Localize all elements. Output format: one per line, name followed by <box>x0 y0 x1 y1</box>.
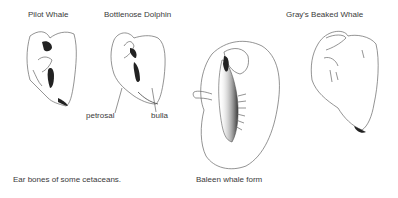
label-baleen-whale: Baleen whale form <box>196 175 262 184</box>
label-bottlenose-dolphin: Bottlenose Dolphin <box>104 10 171 19</box>
label-bulla: bulla <box>151 111 168 120</box>
label-grays-beaked-whale: Gray's Beaked Whale <box>286 10 363 19</box>
baleen-whale-ear-bone <box>193 41 279 168</box>
label-pilot-whale: Pilot Whale <box>28 10 68 19</box>
ear-bone-illustrations <box>0 0 398 198</box>
bottlenose-dolphin-ear-bone <box>111 33 165 113</box>
figure-caption: Ear bones of some cetaceans. <box>13 175 121 184</box>
pilot-whale-ear-bone <box>27 32 76 106</box>
grays-beaked-whale-ear-bone <box>311 31 378 132</box>
label-petrosal: petrosal <box>86 111 114 120</box>
